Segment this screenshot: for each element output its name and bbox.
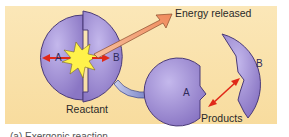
double-arrow-icon [208, 78, 240, 107]
reactant-b-label: B [113, 52, 120, 63]
reactant-a-label: A [55, 52, 62, 63]
product-b-molecule [222, 34, 260, 118]
product-a-label: A [183, 87, 190, 98]
product-b-label: B [256, 58, 263, 69]
figure-caption: (a) Exergonic reaction [10, 131, 108, 137]
reaction-diagram [0, 0, 289, 137]
products-label: Products [201, 112, 242, 124]
product-a-molecule [144, 58, 206, 126]
reactant-label: Reactant [66, 103, 108, 115]
energy-released-label: Energy released [175, 7, 251, 19]
